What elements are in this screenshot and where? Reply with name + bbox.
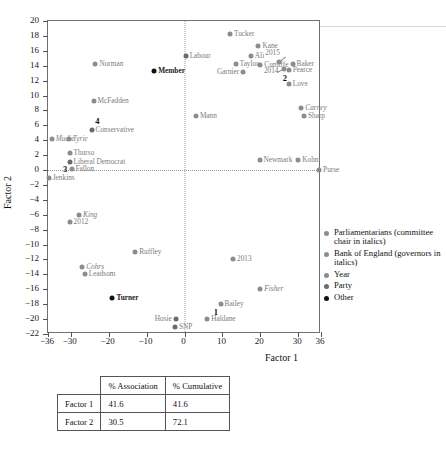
y-tick-label: 12	[30, 75, 39, 85]
y-tick-label: −22	[25, 328, 39, 338]
legend-dot-icon	[324, 296, 329, 301]
point-label-2014: 2014	[264, 67, 279, 74]
point-label-jenkins: Jenkins	[53, 174, 75, 181]
y-tick-label: −8	[29, 224, 39, 234]
x-axis-title: Factor 1	[265, 352, 298, 363]
data-point-turner	[110, 296, 115, 301]
legend-item-0: Parliamentarians (committee chair in ita…	[324, 228, 444, 246]
chart-legend: Parliamentarians (committee chair in ita…	[324, 228, 444, 305]
data-point-purse	[317, 168, 322, 173]
x-tick-label: −36	[40, 336, 54, 346]
y-tick-label: −16	[25, 283, 39, 293]
data-point-liberal-democrat	[67, 159, 72, 164]
table-column-header: % Association	[101, 377, 165, 395]
point-label-kohn: Kohn	[302, 157, 318, 164]
x-tick-label: 10	[217, 336, 226, 346]
point-label-leadsom: Leadsom	[89, 271, 116, 278]
x-tick-label: 20	[255, 336, 264, 346]
data-point-sharp	[301, 114, 306, 119]
point-label-thurso: Thurso	[74, 149, 95, 156]
y-tick-label: 16	[30, 45, 39, 55]
data-point-king	[77, 212, 82, 217]
data-point-mcfadden	[91, 98, 96, 103]
table-cell: 72.1	[165, 413, 229, 431]
data-point-ali	[248, 54, 253, 59]
y-tick-label: 20	[30, 15, 39, 25]
y-tick-label: −10	[25, 239, 39, 249]
point-label-member: Member	[158, 67, 185, 74]
point-label-snp: SNP	[179, 323, 192, 330]
legend-item-1: Bank of England (governors in italics)	[324, 249, 444, 267]
data-point-norman	[93, 62, 98, 67]
y-tick-label: −12	[25, 253, 39, 263]
legend-item-4: Other	[324, 293, 444, 302]
x-tick-label: 0	[181, 336, 186, 346]
point-label-love: Love	[293, 81, 308, 88]
data-point-leadsom	[82, 272, 87, 277]
data-point-ruffley	[133, 250, 138, 255]
y-tick-label: −2	[29, 179, 39, 189]
y-tick-label: −6	[29, 209, 39, 219]
legend-item-2: Year	[324, 270, 444, 279]
table-row: Factor 141.641.6	[58, 395, 230, 413]
scatter-plot-area: TuckerKaneAliCunliffeTaylorGarnierBakerP…	[47, 20, 320, 333]
data-point-bailey	[218, 302, 223, 307]
point-label-sharp: Sharp	[308, 113, 325, 120]
data-point-kohn	[296, 158, 301, 163]
y-axis-title: Factor 2	[2, 176, 13, 209]
y-tick-label: 4	[35, 134, 40, 144]
table-row: Factor 230.572.1	[58, 413, 230, 431]
data-point-mann	[193, 113, 198, 118]
legend-label: Party	[334, 281, 352, 290]
annotation-number-2: 2	[283, 74, 287, 83]
data-point-fallon	[69, 166, 74, 171]
table-cell: Factor 1	[58, 395, 101, 413]
annotation-number-1: 1	[214, 307, 218, 316]
y-tick-label: 0	[35, 164, 40, 174]
data-point-2012	[67, 220, 72, 225]
y-tick-label: 8	[35, 104, 40, 114]
table-cell: 41.6	[165, 395, 229, 413]
table-cell: 41.6	[101, 395, 165, 413]
point-label-hosie: Hosie	[155, 315, 172, 322]
legend-label: Year	[334, 270, 350, 279]
data-point-carney	[299, 106, 304, 111]
scan-artifact-line	[320, 26, 446, 27]
point-label-conservative: Conservative	[96, 126, 135, 133]
point-label-bailey: Bailey	[225, 301, 244, 308]
y-tick-label: 6	[35, 119, 40, 129]
data-point-jenkins	[46, 175, 51, 180]
point-label-2012: 2012	[74, 219, 89, 226]
data-point-garnier	[241, 69, 246, 74]
data-point-cohrs	[80, 264, 85, 269]
data-point-haldane	[205, 317, 210, 322]
point-label-tyrie: Tyrie	[73, 136, 88, 143]
factor-analysis-figure: TuckerKaneAliCunliffeTaylorGarnierBakerP…	[0, 0, 446, 452]
data-point-snp	[173, 324, 178, 329]
data-point-labour	[183, 54, 188, 59]
data-point-kane	[256, 44, 261, 49]
y-tick-label: 2	[35, 149, 40, 159]
table-cell: 30.5	[101, 413, 165, 431]
data-point-member	[152, 68, 157, 73]
point-label-2013: 2013	[237, 256, 252, 263]
data-point-pearce	[286, 68, 291, 73]
point-label-liberal-democrat: Liberal Democrat	[74, 158, 126, 165]
table-column-header	[58, 377, 101, 395]
point-label-taylor: Taylor	[240, 61, 259, 68]
data-point-thurso	[67, 150, 72, 155]
data-point-tucker	[228, 31, 233, 36]
point-label-norman: Norman	[99, 61, 123, 68]
point-label-newmark: Newmark	[264, 157, 293, 164]
table-cell: Factor 2	[58, 413, 101, 431]
x-tick-label: 36	[316, 336, 325, 346]
legend-label: Other	[334, 293, 354, 302]
x-tick-label: −20	[101, 336, 115, 346]
point-label-haldane: Haldane	[211, 315, 235, 322]
x-axis-tick-labels: −36−30−20−10010203036	[47, 336, 320, 350]
point-label-ali: Ali	[255, 52, 264, 59]
annotation-number-4: 4	[95, 117, 99, 126]
point-label-mudie: Mudie	[56, 135, 75, 142]
y-tick-label: −14	[25, 268, 39, 278]
point-label-2015: 2015	[265, 49, 280, 56]
